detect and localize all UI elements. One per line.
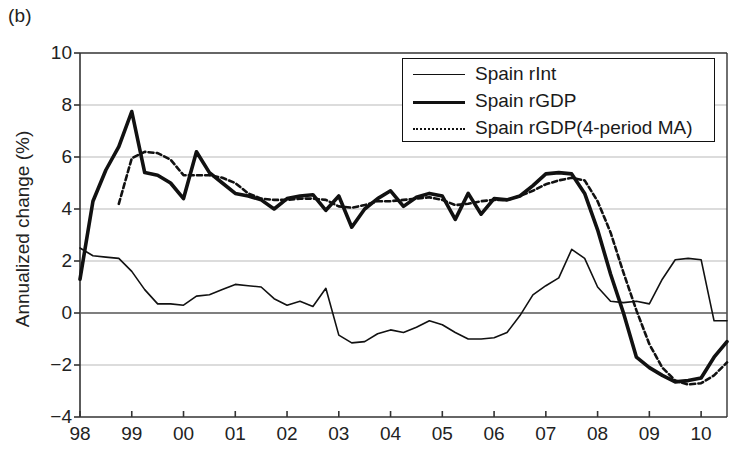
- legend-label: Spain rGDP(4-period MA): [475, 118, 693, 137]
- legend-swatch-dotted-line-icon: [413, 121, 465, 135]
- chart-figure: (b) Annualized change (%) 10 8 6 4 2 0 −…: [0, 0, 731, 455]
- legend-swatch-thin-line-icon: [413, 67, 465, 81]
- legend-label: Spain rGDP: [475, 91, 576, 110]
- legend-item-spain-rgdp-ma: Spain rGDP(4-period MA): [413, 114, 693, 141]
- legend-label: Spain rInt: [475, 64, 556, 83]
- legend-swatch-thick-line-icon: [413, 94, 465, 108]
- legend: Spain rInt Spain rGDP Spain rGDP(4-perio…: [402, 58, 715, 142]
- legend-item-spain-rint: Spain rInt: [413, 60, 556, 87]
- series-line-spain-rgdp: [80, 112, 727, 382]
- legend-item-spain-rgdp: Spain rGDP: [413, 87, 576, 114]
